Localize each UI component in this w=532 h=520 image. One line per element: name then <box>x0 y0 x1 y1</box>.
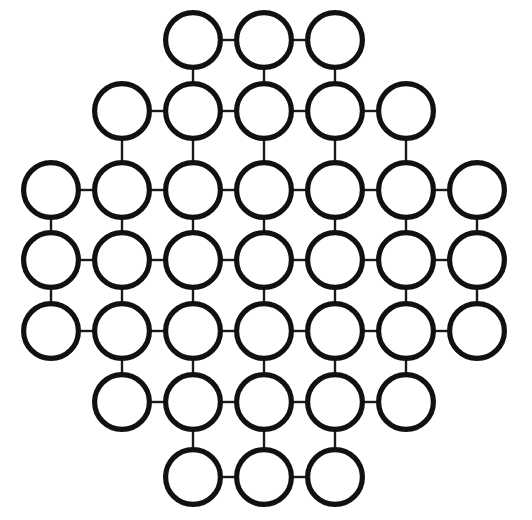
lattice-node-circle[interactable] <box>24 163 79 218</box>
lattice-node-circle[interactable] <box>308 233 363 288</box>
lattice-node-circle[interactable] <box>166 375 221 430</box>
lattice-node-circle[interactable] <box>379 163 434 218</box>
lattice-node-circle[interactable] <box>166 13 221 68</box>
lattice-node-circle[interactable] <box>237 375 292 430</box>
lattice-canvas <box>0 0 532 520</box>
lattice-node-circle[interactable] <box>379 375 434 430</box>
lattice-node-circle[interactable] <box>450 163 505 218</box>
lattice-node-circle[interactable] <box>166 163 221 218</box>
lattice-node-circle[interactable] <box>237 233 292 288</box>
lattice-node-circle[interactable] <box>308 84 363 139</box>
lattice-node-circle[interactable] <box>237 304 292 359</box>
lattice-node-circle[interactable] <box>450 233 505 288</box>
lattice-node-circle[interactable] <box>237 13 292 68</box>
lattice-node-circle[interactable] <box>24 304 79 359</box>
lattice-node-circle[interactable] <box>308 304 363 359</box>
lattice-node-circle[interactable] <box>95 233 150 288</box>
lattice-node-circle[interactable] <box>450 304 505 359</box>
hexagonal-lattice-figure <box>0 0 532 520</box>
lattice-node-circle[interactable] <box>166 304 221 359</box>
lattice-node-circle[interactable] <box>237 84 292 139</box>
lattice-node-circle[interactable] <box>237 450 292 505</box>
lattice-node-circle[interactable] <box>95 375 150 430</box>
lattice-node-circle[interactable] <box>308 375 363 430</box>
nodes-group <box>24 13 505 505</box>
lattice-node-circle[interactable] <box>237 163 292 218</box>
lattice-node-circle[interactable] <box>166 84 221 139</box>
lattice-node-circle[interactable] <box>95 84 150 139</box>
lattice-node-circle[interactable] <box>24 233 79 288</box>
lattice-node-circle[interactable] <box>166 233 221 288</box>
lattice-node-circle[interactable] <box>379 304 434 359</box>
lattice-node-circle[interactable] <box>95 163 150 218</box>
lattice-node-circle[interactable] <box>379 84 434 139</box>
lattice-node-circle[interactable] <box>166 450 221 505</box>
lattice-node-circle[interactable] <box>308 450 363 505</box>
lattice-node-circle[interactable] <box>308 163 363 218</box>
lattice-node-circle[interactable] <box>379 233 434 288</box>
lattice-node-circle[interactable] <box>95 304 150 359</box>
lattice-node-circle[interactable] <box>308 13 363 68</box>
